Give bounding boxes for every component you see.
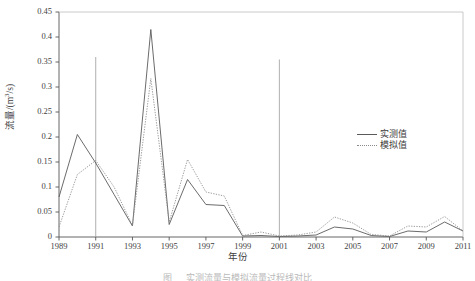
- y-tick-label: 0.2: [12, 132, 52, 141]
- y-tick-label: 0.45: [12, 7, 52, 16]
- x-tick-label: 1991: [76, 242, 116, 251]
- y-tick-label: 0: [12, 232, 52, 241]
- x-tick-label: 2005: [333, 242, 373, 251]
- y-axis-title-superscript: 3: [3, 93, 11, 97]
- y-tick-label: 0.4: [12, 32, 52, 41]
- y-tick-label: 0.3: [12, 82, 52, 91]
- x-tick-label: 2003: [296, 242, 336, 251]
- legend-swatch-dotted-icon: [357, 145, 377, 146]
- x-axis-title: 年份: [0, 249, 475, 263]
- x-tick-label: 2007: [370, 242, 410, 251]
- x-tick-label: 2009: [406, 242, 446, 251]
- legend-swatch-solid-icon: [357, 134, 377, 136]
- x-tick-label: 1999: [223, 242, 263, 251]
- y-tick-label: 0.1: [12, 182, 52, 191]
- legend: 实测值 模拟值: [357, 129, 407, 151]
- y-tick-label: 0.15: [12, 157, 52, 166]
- x-tick-label: 2001: [259, 242, 299, 251]
- chart-figure: 流量/(m3/s) 年份 00.050.10.150.20.250.30.350…: [0, 0, 475, 281]
- y-tick-label: 0.35: [12, 57, 52, 66]
- legend-label-simulated: 模拟值: [380, 140, 407, 151]
- x-tick-label: 1989: [39, 242, 79, 251]
- legend-item-measured: 实测值: [357, 129, 407, 140]
- axis-lines: [56, 12, 464, 241]
- legend-item-simulated: 模拟值: [357, 140, 407, 151]
- x-tick-label: 1995: [149, 242, 189, 251]
- x-tick-label: 2011: [443, 242, 475, 251]
- x-tick-label: 1997: [186, 242, 226, 251]
- y-tick-label: 0.25: [12, 107, 52, 116]
- legend-label-measured: 实测值: [380, 129, 407, 140]
- figure-caption: 图 实测流量与模拟流量过程线对比: [0, 271, 475, 281]
- series-line-simulated: [59, 79, 463, 237]
- x-tick-label: 1993: [112, 242, 152, 251]
- y-tick-label: 0.05: [12, 207, 52, 216]
